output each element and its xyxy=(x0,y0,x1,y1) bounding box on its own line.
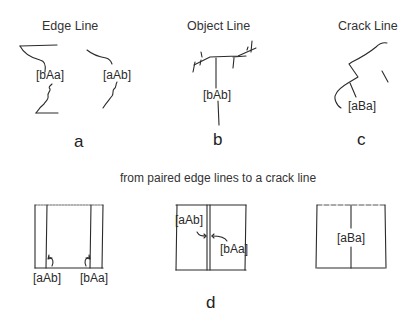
d-left-label-baa: [bAa] xyxy=(80,272,108,284)
panel-b-letter: b xyxy=(213,131,222,148)
panel-d-letter: d xyxy=(206,294,215,311)
object-label-bab: [bAb] xyxy=(203,89,231,101)
panel-d-caption: from paired edge lines to a crack line xyxy=(120,172,316,184)
d-middle-label-aab: [aAb] xyxy=(175,214,203,226)
panel-c-title: Crack Line xyxy=(338,20,398,33)
panel-a-title: Edge Line xyxy=(42,20,98,33)
panel-c-letter: c xyxy=(357,131,366,148)
panel-a-letter: a xyxy=(74,133,83,150)
edge-label-baa: [bAa] xyxy=(36,69,64,81)
crack-label-aba: [aBa] xyxy=(348,100,376,112)
d-middle-label-baa: [bAa] xyxy=(220,243,248,255)
object-line xyxy=(193,41,256,125)
d-left-label-aab: [aAb] xyxy=(33,272,61,284)
panel-b-title: Object Line xyxy=(187,20,250,33)
d-left-box xyxy=(35,205,103,268)
edge-label-aab: [aAb] xyxy=(103,69,131,81)
diagram-canvas xyxy=(0,0,408,318)
d-right-label-aba: [aBa] xyxy=(337,232,365,244)
